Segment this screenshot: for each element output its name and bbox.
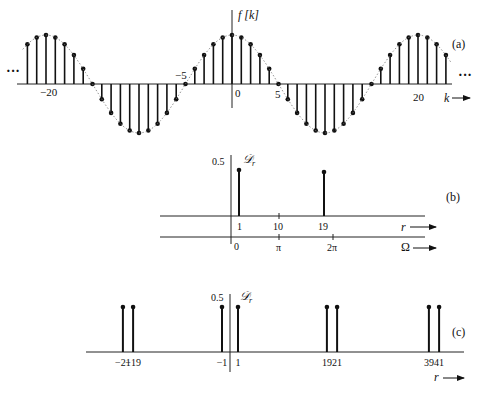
a-tick-neg5: −5 <box>175 69 187 81</box>
b-tick-label-10: 10 <box>273 221 283 232</box>
c-stem-dot <box>131 305 136 310</box>
c-tick-label: −19 <box>125 357 141 368</box>
b-omega-tick-pi: π <box>276 242 281 253</box>
a-stem-dot <box>425 35 430 40</box>
c-stem-dot <box>437 305 442 310</box>
a-stem-dot <box>276 82 281 87</box>
a-xlabel: k <box>444 91 450 105</box>
b-stem-1-dot <box>237 168 242 173</box>
c-stem-dot <box>220 305 225 310</box>
panel-a: f [k] (a) ··· ··· −20 −5 0 5 20 k <box>6 8 472 135</box>
b-tick-label-1: 1 <box>237 221 242 232</box>
a-stem-dot <box>332 128 337 133</box>
a-stem-dot <box>230 33 235 38</box>
b-panel-label: (b) <box>446 190 460 204</box>
a-stem-dot <box>239 35 244 40</box>
c-ytick-half: 0.5 <box>211 292 224 303</box>
b-ytick-half: 0.5 <box>212 156 225 167</box>
a-tick-neg20: −20 <box>40 86 58 98</box>
panel-b: 0.5 𝒟 r (b) 1 10 19 0 π 2π r Ω <box>160 152 460 254</box>
c-tick-label: 1 <box>236 357 241 368</box>
c-tick-label: 19 <box>322 357 332 368</box>
a-stem-dot <box>360 97 365 102</box>
c-stem-dot <box>335 305 340 310</box>
c-panel-label: (c) <box>452 325 465 339</box>
a-dots-right: ··· <box>458 68 472 83</box>
a-stem-dot <box>369 82 374 87</box>
b-omega-tick-2pi: 2π <box>327 242 337 253</box>
c-stem-dot <box>236 305 241 310</box>
a-tick-5: 5 <box>275 88 281 100</box>
a-tick-0: 0 <box>235 87 241 99</box>
a-stem-dot <box>146 128 151 133</box>
b-stem-19-dot <box>322 170 327 175</box>
c-tick-label: −1 <box>217 357 228 368</box>
c-stem-dot <box>427 305 432 310</box>
b-omega-tick-0: 0 <box>234 241 239 252</box>
a-stem-dot <box>53 35 58 40</box>
c-tick-label: 39 <box>424 357 434 368</box>
b-tick-label-19: 19 <box>318 221 328 232</box>
a-stem-dot <box>109 111 114 116</box>
a-dots-left: ··· <box>6 64 20 79</box>
b-r-label: r <box>401 220 406 234</box>
a-stem-dot <box>174 97 179 102</box>
panel-c: −21−19−1119213941 0.5 𝒟 r (c) r <box>86 289 465 384</box>
c-stem-dot <box>325 305 330 310</box>
c-stem-dot <box>121 305 126 310</box>
c-r-label: r <box>434 370 439 384</box>
a-stem-dot <box>267 67 272 72</box>
a-ylabel: f [k] <box>238 8 259 22</box>
a-panel-label: (a) <box>452 37 465 51</box>
a-stem-dot <box>295 111 300 116</box>
figure: f [k] (a) ··· ··· −20 −5 0 5 20 k 0.5 𝒟 … <box>0 0 483 393</box>
a-tick-20: 20 <box>413 91 425 103</box>
c-tick-label: 41 <box>434 357 444 368</box>
a-stem-dot <box>81 67 86 72</box>
b-omega-label: Ω <box>401 240 410 254</box>
b-ylabel-sub: r <box>252 159 256 168</box>
a-stem-dot <box>202 53 207 58</box>
c-tick-label: 21 <box>332 357 342 368</box>
c-stems: −21−19−1119213941 <box>115 305 444 368</box>
c-ylabel-sub: r <box>249 296 253 305</box>
